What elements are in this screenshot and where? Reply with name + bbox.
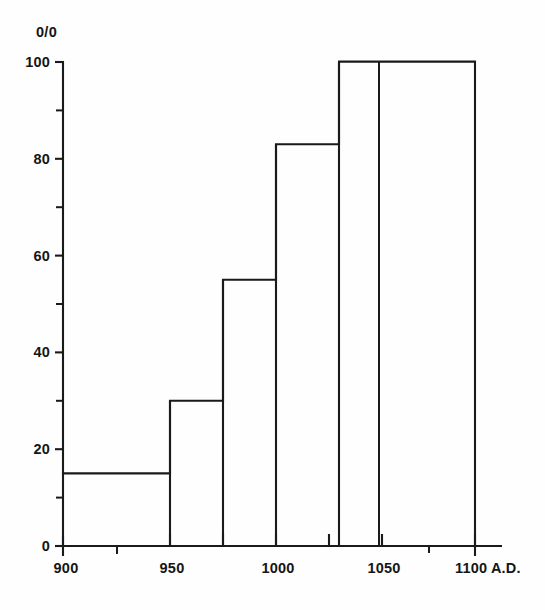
chart-figure: 0/0 100 80 60 40 20 0 900 950 1000 1050 … [0, 0, 545, 610]
y-tick-label-100: 100 [8, 54, 50, 70]
y-tick-label-40: 40 [8, 344, 50, 360]
histogram-step-outline [63, 62, 475, 546]
y-axis-unit-label: 0/0 [36, 24, 57, 40]
x-tick-label-900: 900 [54, 560, 79, 576]
x-tick-label-1100: 1100 A.D. [455, 560, 521, 576]
y-tick-label-80: 80 [8, 151, 50, 167]
x-tick-label-1050: 1050 [367, 560, 400, 576]
x-tick-label-950: 950 [160, 560, 185, 576]
y-tick-label-20: 20 [8, 441, 50, 457]
y-tick-label-0: 0 [8, 538, 50, 554]
histogram-plot [0, 0, 545, 610]
y-tick-label-60: 60 [8, 248, 50, 264]
x-axis-minor-ticks [117, 546, 429, 554]
histogram-step-risers [170, 62, 339, 546]
x-tick-label-1000: 1000 [261, 560, 294, 576]
